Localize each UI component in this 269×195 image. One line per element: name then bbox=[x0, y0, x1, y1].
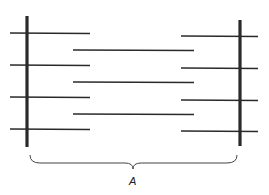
thick-filament bbox=[73, 50, 194, 51]
brace-label: A bbox=[129, 175, 136, 187]
thick-filament bbox=[73, 82, 194, 83]
thick-filament bbox=[73, 114, 194, 115]
thin-filament-left bbox=[10, 33, 90, 34]
a-band-brace bbox=[30, 155, 237, 169]
thin-filament-right bbox=[181, 68, 258, 69]
thin-filament-right bbox=[181, 131, 258, 132]
thin-filament-left bbox=[10, 129, 90, 130]
sarcomere-diagram bbox=[0, 0, 269, 195]
thin-filament-right bbox=[181, 100, 258, 101]
thin-filament-left bbox=[10, 65, 90, 66]
thin-filament-right bbox=[181, 36, 258, 37]
thin-filament-left bbox=[10, 97, 90, 98]
